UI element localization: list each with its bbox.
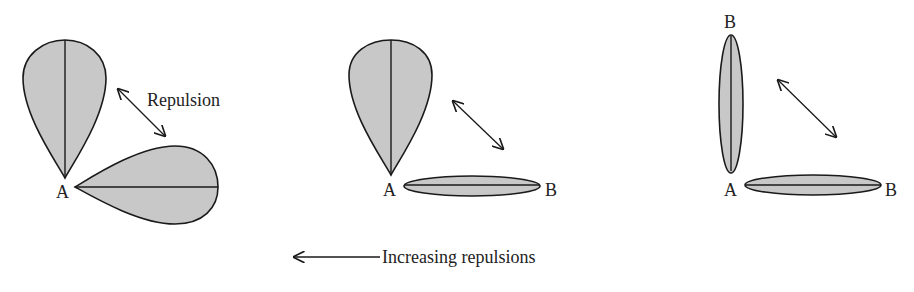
atom-label-b: B [545, 180, 557, 200]
atom-label-b-top: B [724, 12, 736, 32]
atom-label-a: A [56, 182, 69, 202]
repulsion-double-arrow-icon [453, 101, 503, 149]
atom-label-a: A [383, 180, 396, 200]
atom-label-a: A [724, 180, 737, 200]
repulsion-diagram: A Repulsion A B B A B Increasing repulsi… [0, 0, 914, 292]
panel-bond-pair-bond-pair: B A B [719, 12, 897, 200]
repulsion-double-arrow-icon [778, 80, 836, 137]
increasing-repulsions-caption: Increasing repulsions [294, 247, 535, 267]
panel-lone-pair-lone-pair: A Repulsion [23, 40, 220, 224]
atom-label-b-right: B [885, 180, 897, 200]
caption-text: Increasing repulsions [382, 247, 535, 267]
lone-pair-lobe-horizontal [75, 146, 218, 224]
bond-pair-lobe [404, 176, 540, 196]
repulsion-label: Repulsion [147, 90, 220, 110]
panel-lone-pair-bond-pair: A B [349, 40, 557, 200]
